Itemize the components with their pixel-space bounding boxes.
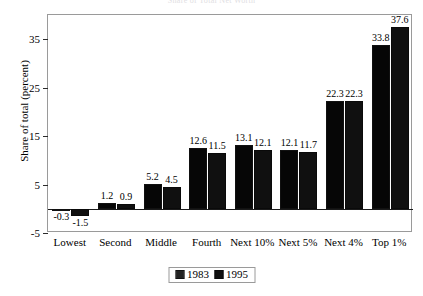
value-label-1983-second: 1.2 — [101, 190, 114, 201]
y-tick-label-35: 35 — [29, 33, 40, 45]
plot-area: -55152535 -0.3-1.51.20.95.24.512.611.513… — [47, 14, 412, 232]
y-tick-label-15: 15 — [29, 130, 40, 142]
value-label-1983-lowest: -0.3 — [53, 211, 69, 222]
legend-swatch-1983-icon — [175, 270, 184, 279]
value-label-1983-next-10: 13.1 — [235, 132, 253, 143]
clipped-title: Share of Total Net Worth — [0, 0, 423, 5]
bar-1995-fourth[interactable] — [208, 153, 226, 209]
bar-1995-lowest[interactable] — [71, 209, 89, 216]
value-label-1995-next-10: 12.1 — [254, 137, 272, 148]
x-axis-label-middle: Middle — [145, 236, 177, 248]
bar-1983-fourth[interactable] — [189, 148, 207, 209]
x-axis-label-fourth: Fourth — [192, 236, 221, 248]
y-tick-35 — [43, 39, 48, 40]
y-axis-title: Share of total (percent) — [18, 31, 30, 191]
x-axis-label-next-5: Next 5% — [279, 236, 318, 248]
bar-1983-second[interactable] — [98, 203, 116, 209]
bar-1983-middle[interactable] — [144, 184, 162, 209]
bar-1995-next-4[interactable] — [345, 101, 363, 209]
x-axis-label-second: Second — [99, 236, 131, 248]
bar-1995-second[interactable] — [117, 204, 135, 208]
bar-1983-next-5[interactable] — [280, 150, 298, 209]
value-label-1983-top-1: 33.8 — [372, 32, 390, 43]
value-label-1995-next-5: 11.7 — [300, 139, 317, 150]
y-tick--5 — [43, 233, 48, 234]
legend-swatch-1995-icon — [214, 270, 223, 279]
y-tick-label--5: -5 — [31, 227, 40, 239]
y-tick-15 — [43, 136, 48, 137]
value-label-1983-fourth: 12.6 — [189, 135, 207, 146]
bar-1995-middle[interactable] — [163, 187, 181, 209]
bar-1983-next-10[interactable] — [235, 145, 253, 208]
value-label-1983-next-4: 22.3 — [326, 88, 344, 99]
value-label-1995-fourth: 11.5 — [209, 140, 226, 151]
y-tick-25 — [43, 88, 48, 89]
legend-label-1995: 1995 — [226, 269, 248, 280]
value-label-1995-next-4: 22.3 — [345, 88, 363, 99]
bar-1983-next-4[interactable] — [326, 101, 344, 209]
chart-legend: 1983 1995 — [168, 267, 255, 283]
x-axis-label-lowest: Lowest — [54, 236, 86, 248]
y-tick-label-5: 5 — [35, 179, 41, 191]
chart-figure: Share of Total Net Worth Share of total … — [0, 0, 423, 296]
zero-baseline — [48, 209, 413, 210]
value-label-1995-middle: 4.5 — [165, 174, 178, 185]
value-label-1983-next-5: 12.1 — [281, 137, 299, 148]
value-label-1995-lowest: -1.5 — [72, 217, 88, 228]
x-axis-label-next-4: Next 4% — [324, 236, 363, 248]
legend-item-1983[interactable]: 1983 — [175, 269, 209, 280]
bar-1983-top-1[interactable] — [372, 45, 390, 209]
value-label-1995-top-1: 37.6 — [391, 14, 409, 25]
value-label-1995-second: 0.9 — [120, 191, 133, 202]
value-label-1983-middle: 5.2 — [146, 171, 159, 182]
x-axis-label-top-1: Top 1% — [372, 236, 406, 248]
legend-label-1983: 1983 — [187, 269, 209, 280]
bar-1995-top-1[interactable] — [391, 27, 409, 209]
x-axis-label-next-10: Next 10% — [230, 236, 274, 248]
y-tick-5 — [43, 185, 48, 186]
legend-item-1995[interactable]: 1995 — [214, 269, 248, 280]
bar-1995-next-5[interactable] — [299, 152, 317, 209]
bar-1995-next-10[interactable] — [254, 150, 272, 209]
y-tick-label-25: 25 — [29, 82, 40, 94]
